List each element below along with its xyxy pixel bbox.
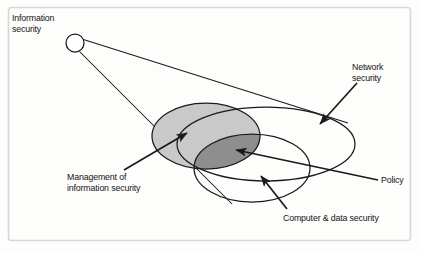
figure-container: Information security Network security Ma… bbox=[0, 0, 421, 253]
information-security-node bbox=[66, 34, 84, 52]
label-management-of-information-security: Management of information security bbox=[67, 172, 140, 193]
label-computer-and-data-security: Computer & data security bbox=[283, 213, 379, 224]
label-network-security: Network security bbox=[352, 62, 383, 83]
label-policy: Policy bbox=[381, 175, 404, 186]
label-information-security: Information security bbox=[12, 13, 54, 34]
